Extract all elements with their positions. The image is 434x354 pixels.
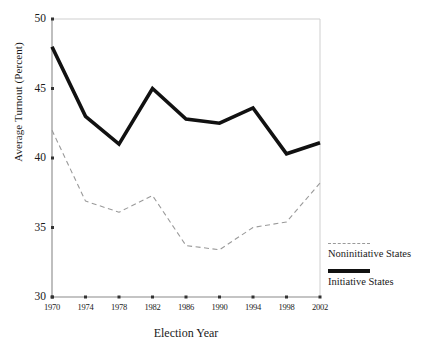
legend-swatch-solid-line-icon (328, 266, 370, 275)
chart-plot-area (0, 0, 434, 354)
x-axis-title: Election Year (52, 326, 320, 341)
x-tick-label: 1970 (35, 302, 69, 312)
legend-label: Initiative States (328, 276, 434, 287)
x-tick-label: 2002 (303, 302, 337, 312)
y-tick-label: 50 (35, 13, 47, 25)
chart-container: 30 35 40 45 50 1970 1974 1978 1982 1986 … (0, 0, 434, 354)
legend-label: Noninitiative States (328, 248, 434, 259)
legend-entry-initiative-states: Initiative States (328, 266, 434, 287)
x-tick-label: 1978 (102, 302, 136, 312)
x-tick-label: 1982 (136, 302, 170, 312)
y-axis-title: Average Turnout (Percent) (12, 22, 24, 182)
x-tick-label: 1986 (169, 302, 203, 312)
series-line-noninitiative-states (52, 130, 320, 250)
y-tick-label: 40 (35, 152, 47, 164)
y-tick-label: 35 (35, 222, 47, 234)
x-tick-label: 1974 (69, 302, 103, 312)
x-tick-label: 1998 (270, 302, 304, 312)
x-tick-label: 1994 (236, 302, 270, 312)
legend-swatch-dashed-line-icon (328, 240, 370, 247)
y-tick-label: 45 (35, 83, 47, 95)
x-tick-label: 1990 (203, 302, 237, 312)
y-tick-label: 30 (35, 291, 47, 303)
legend-entry-noninitiative-states: Noninitiative States (328, 240, 434, 259)
chart-legend: Noninitiative States Initiative States (328, 240, 434, 294)
series-line-initiative-states (52, 47, 320, 154)
